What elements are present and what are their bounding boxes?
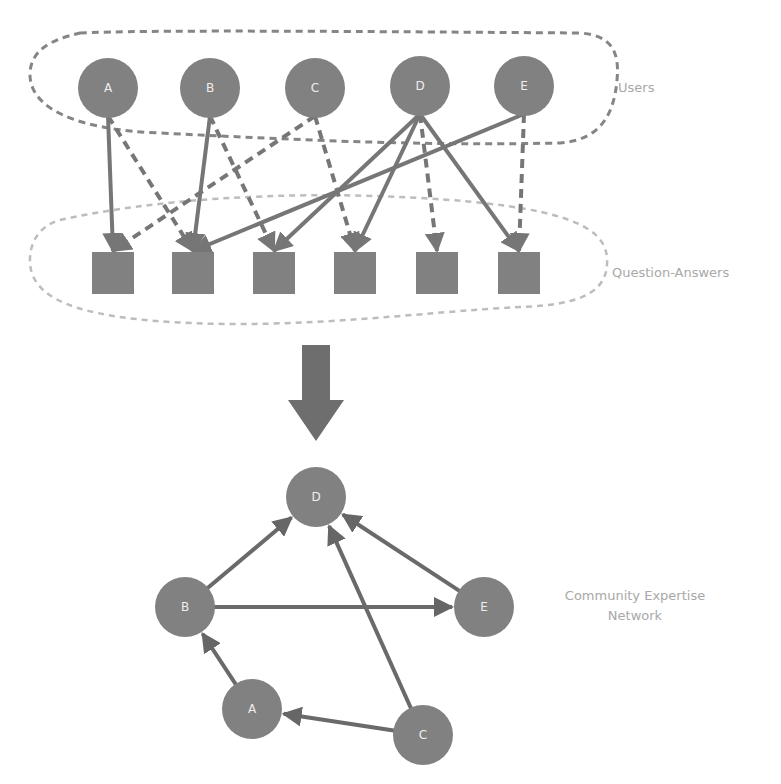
edge-E-Q6-dashed xyxy=(519,114,524,251)
user-node-B: B xyxy=(180,58,240,118)
question-answer-node xyxy=(498,252,540,294)
network-edge-A-B xyxy=(203,634,237,686)
node-label: D xyxy=(311,490,320,504)
edge-D-Q4-solid xyxy=(355,114,420,251)
transform-arrow-icon xyxy=(288,345,344,441)
network-edge-E-D xyxy=(343,515,461,592)
network-edge-C-A xyxy=(284,714,396,731)
node-label: C xyxy=(311,81,319,95)
diagram-canvas: ABCDE Users Question-Answers DBEAC Commu… xyxy=(0,0,781,784)
edge-C-Q4-dashed xyxy=(315,116,355,251)
user-node-D: D xyxy=(390,56,450,116)
users-label: Users xyxy=(618,80,655,95)
node-label: D xyxy=(415,79,424,93)
network-node-A: A xyxy=(222,679,282,739)
question-answer-node xyxy=(172,252,214,294)
user-qa-edges xyxy=(108,114,524,251)
user-nodes: ABCDE xyxy=(78,56,554,118)
node-label: A xyxy=(248,702,257,716)
edge-E-Q2-solid xyxy=(193,114,524,251)
node-label: B xyxy=(181,600,189,614)
question-answer-node xyxy=(334,252,376,294)
network-node-B: B xyxy=(155,577,215,637)
node-label: E xyxy=(480,600,488,614)
node-label: E xyxy=(520,79,528,93)
network-node-E: E xyxy=(454,577,514,637)
question-answer-node xyxy=(416,252,458,294)
question-answer-node xyxy=(253,252,295,294)
network-label-line2: Network xyxy=(608,608,663,623)
network-node-C: C xyxy=(393,705,453,765)
user-node-E: E xyxy=(494,56,554,116)
edge-D-Q3-solid xyxy=(274,114,420,251)
network-label-line1: Community Expertise xyxy=(565,588,705,603)
node-label: C xyxy=(419,728,427,742)
question-answers-label: Question-Answers xyxy=(612,265,729,280)
edge-A-Q2-dashed xyxy=(108,116,193,251)
node-label: A xyxy=(104,81,113,95)
network-node-D: D xyxy=(286,467,346,527)
node-label: B xyxy=(206,81,214,95)
question-answer-node xyxy=(92,252,134,294)
network-edge-B-D xyxy=(206,518,291,589)
question-answer-nodes xyxy=(92,252,540,294)
edge-A-Q1-solid xyxy=(108,116,113,251)
user-node-A: A xyxy=(78,58,138,118)
user-node-C: C xyxy=(285,58,345,118)
